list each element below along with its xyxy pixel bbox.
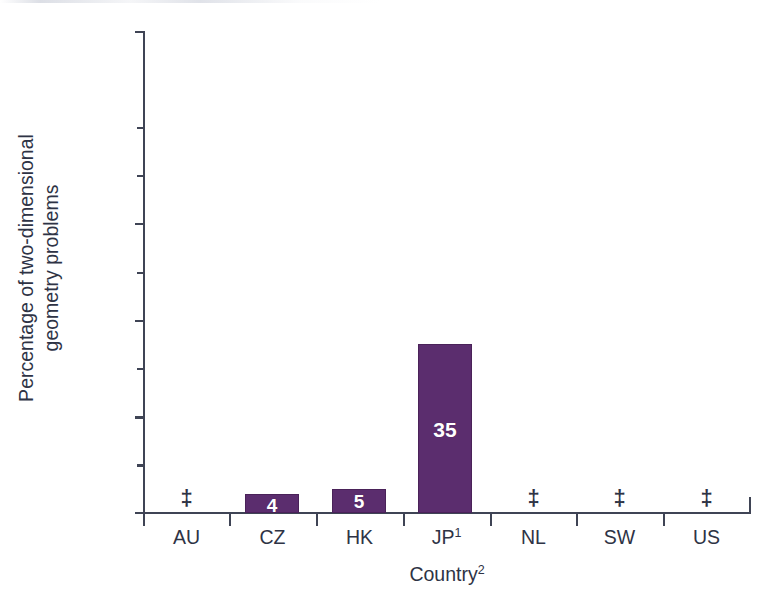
y-axis-title-line-2: geometry problems — [39, 33, 64, 503]
x-tick-1 — [229, 513, 231, 526]
x-axis-title-footnote: 2 — [478, 563, 485, 577]
x-tick-2 — [316, 513, 318, 526]
y-tick-20 — [135, 416, 144, 418]
x-tick-label-jp-text: JP — [432, 526, 455, 548]
x-tick-4 — [490, 513, 492, 526]
bar-value-jp: 35 — [418, 418, 472, 442]
y-tick-70 — [137, 272, 144, 274]
suppressed-marker-nl: ‡ — [490, 487, 577, 509]
y-tick-60b — [135, 320, 144, 322]
x-tick-6 — [663, 513, 665, 526]
y-tick-10 — [137, 464, 144, 466]
bar-chart-figure: 100 80 60 40 20 0 ‡ AU 4 CZ 5 HK 35 JP1 … — [0, 0, 766, 611]
bar-value-cz: 4 — [245, 495, 299, 517]
x-tick-label-sw: SW — [576, 526, 663, 549]
scan-artifact — [0, 0, 766, 3]
x-axis-title: Country2 — [143, 563, 751, 586]
x-axis-title-text: Country — [409, 563, 477, 585]
x-tick-5 — [576, 513, 578, 526]
x-tick-label-nl: NL — [490, 526, 577, 549]
x-tick-label-hk: HK — [316, 526, 403, 549]
x-tick-label-jp-footnote: 1 — [454, 526, 461, 540]
x-tick-label-hk-text: HK — [346, 526, 373, 548]
x-tick-3 — [403, 513, 405, 526]
x-tick-label-cz: CZ — [229, 526, 316, 549]
x-tick-label-nl-text: NL — [521, 526, 546, 548]
x-tick-label-au-text: AU — [173, 526, 200, 548]
x-tick-label-us-text: US — [693, 526, 720, 548]
y-tick-100 — [135, 31, 144, 33]
bar-value-hk: 5 — [332, 491, 386, 513]
suppressed-marker-au: ‡ — [143, 487, 230, 509]
suppressed-marker-sw: ‡ — [576, 487, 663, 509]
y-axis-title-line-1: Percentage of two-dimensional — [14, 33, 39, 503]
y-tick-50 — [137, 368, 144, 370]
x-tick-label-jp: JP1 — [403, 526, 490, 549]
x-tick-label-au: AU — [143, 526, 230, 549]
y-tick-85 — [137, 175, 144, 177]
y-tick-80b — [135, 223, 144, 225]
x-tick-label-cz-text: CZ — [260, 526, 286, 548]
x-tick-0 — [143, 513, 145, 526]
suppressed-marker-us: ‡ — [663, 487, 750, 509]
y-tick-90 — [137, 127, 144, 129]
x-tick-label-sw-text: SW — [604, 526, 635, 548]
y-axis-title: Percentage of two-dimensional geometry p… — [14, 33, 64, 503]
x-tick-label-us: US — [663, 526, 750, 549]
